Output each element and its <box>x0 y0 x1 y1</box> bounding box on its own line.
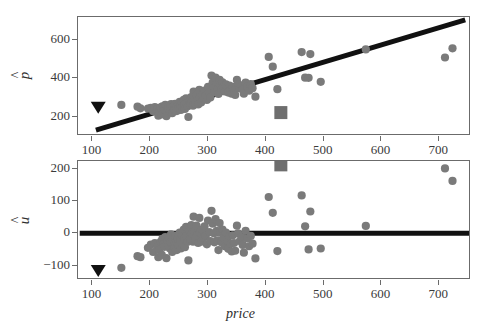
x-tick-label: 600 <box>355 287 405 300</box>
x-tick-mark <box>265 136 266 141</box>
x-tick-mark <box>207 280 208 285</box>
x-axis-title: price <box>0 307 481 321</box>
scatter-point <box>269 209 277 217</box>
x-tick-mark <box>207 136 208 141</box>
scatter-point <box>117 101 125 109</box>
x-tick-mark <box>149 280 150 285</box>
y-tick-mark <box>72 265 77 266</box>
x-tick-mark <box>438 280 439 285</box>
y-tick-mark <box>72 77 77 78</box>
x-tick-mark <box>380 136 381 141</box>
scatter-point <box>362 45 370 53</box>
x-tick-label: 100 <box>66 287 116 300</box>
x-tick-label: 500 <box>298 287 348 300</box>
square-marker <box>274 161 287 171</box>
triangle-marker <box>91 265 106 277</box>
plot-frame-top <box>77 16 470 135</box>
x-tick-mark <box>265 280 266 285</box>
y-tick-mark <box>72 168 77 169</box>
scatter-point <box>184 256 192 264</box>
scatter-point <box>136 104 144 112</box>
scatter-point <box>117 264 125 272</box>
x-tick-mark <box>91 280 92 285</box>
panel-residuals-vs-price: ^u −1000100200 100200300400500600700 pri… <box>0 155 481 331</box>
scatter-point <box>162 254 170 262</box>
scatter-point <box>298 191 306 199</box>
scatter-point <box>298 48 306 56</box>
scatter-point <box>195 214 203 222</box>
y-tick-label: 100 <box>30 193 70 206</box>
scatter-point <box>306 207 314 215</box>
y-tick-label: 600 <box>30 32 70 45</box>
scatter-point <box>269 63 277 71</box>
scatter-point <box>251 254 259 262</box>
y-tick-mark <box>72 200 77 201</box>
y-tick-label: 200 <box>30 109 70 122</box>
scatter-point <box>248 84 256 92</box>
y-tick-mark <box>72 116 77 117</box>
x-tick-mark <box>438 136 439 141</box>
x-tick-mark <box>323 136 324 141</box>
scatter-point <box>273 247 281 255</box>
x-tick-label: 400 <box>240 287 290 300</box>
scatter-point <box>306 50 314 58</box>
scatter-point <box>448 177 456 185</box>
y-tick-mark <box>72 232 77 233</box>
scatter-point <box>136 253 144 261</box>
scatter-point <box>248 240 256 248</box>
scatter-layer-bottom <box>78 161 469 278</box>
scatter-point <box>233 222 241 230</box>
scatter-layer-top <box>78 17 469 134</box>
plot-frame-bottom <box>77 160 470 279</box>
triangle-marker <box>91 102 106 114</box>
scatter-point <box>304 245 312 253</box>
scatter-point <box>304 74 312 82</box>
y-tick-label: 200 <box>30 161 70 174</box>
scatter-point <box>207 207 215 215</box>
scatter-point <box>247 232 255 240</box>
hat-accent-u: ^ <box>9 217 23 223</box>
y-tick-label: −100 <box>30 258 70 271</box>
scatter-point <box>273 85 281 93</box>
scatter-point <box>448 44 456 52</box>
scatter-point <box>231 91 239 99</box>
x-tick-mark <box>91 136 92 141</box>
square-marker <box>274 106 287 119</box>
scatter-point <box>184 113 192 121</box>
x-tick-label: 300 <box>182 287 232 300</box>
scatter-point <box>441 164 449 172</box>
x-tick-mark <box>149 136 150 141</box>
scatter-point <box>231 247 239 255</box>
y-tick-label: 0 <box>30 225 70 238</box>
scatter-point <box>317 244 325 252</box>
scatter-point <box>317 78 325 86</box>
panel-fitted-vs-price: ^p 200400600 100200300400500600700 <box>0 0 481 155</box>
y-tick-label: 400 <box>30 70 70 83</box>
x-tick-mark <box>380 280 381 285</box>
scatter-point <box>251 93 259 101</box>
y-tick-mark <box>72 39 77 40</box>
scatter-point <box>362 222 370 230</box>
scatter-point <box>301 222 309 230</box>
scatter-point <box>265 53 273 61</box>
x-tick-label: 700 <box>413 287 463 300</box>
x-tick-mark <box>323 280 324 285</box>
scatter-point <box>441 53 449 61</box>
regression-diagnostic-figure: ^p 200400600 100200300400500600700 ^u −1… <box>0 0 481 331</box>
x-tick-label: 200 <box>124 287 174 300</box>
hat-accent-p: ^ <box>9 72 23 78</box>
scatter-point <box>240 249 248 257</box>
scatter-point <box>265 193 273 201</box>
